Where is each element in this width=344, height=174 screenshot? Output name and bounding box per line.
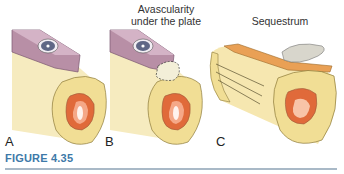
panel-label-a: A [5,134,14,149]
panel-a-illustration: A [0,0,115,150]
screw-icon [38,39,58,53]
panel-b-illustration: Avascularity under the plate B [100,0,210,150]
bone-with-plate-illustration [0,0,115,150]
bone-sequestrum-illustration [200,0,344,150]
bone-avascular-zone-illustration [100,0,210,150]
sequestrum-fragment [282,44,324,62]
panel-label-c: C [216,134,225,149]
panel-c-illustration: Sequestrum C [200,0,344,150]
figure-caption: FIGURE 4.35 [5,152,73,164]
screw-icon [133,39,153,53]
caption-divider [5,168,337,170]
panel-label-b: B [105,134,114,149]
